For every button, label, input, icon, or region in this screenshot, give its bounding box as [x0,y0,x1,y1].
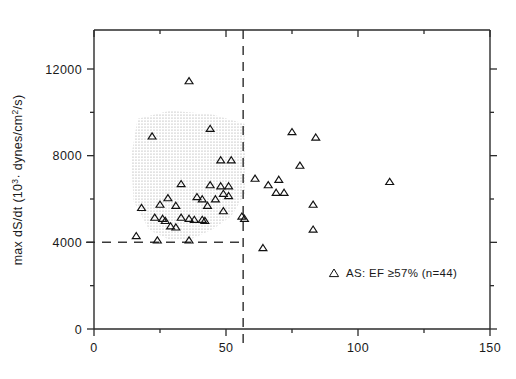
data-point-marker [259,244,267,250]
axis-tick-labels: 05010015004000800012000 [45,63,501,356]
legend: AS: EF ≥57% (n=44) [329,267,457,279]
plot-canvas: 05010015004000800012000 max dS/dt (103· … [0,0,516,379]
y-axis-title: max dS/dt (103· dynes/cm2/s) [10,95,25,266]
shaded-normal-range-region [131,111,246,241]
y-tick-label: 8000 [53,149,82,163]
scatter-plot-figure: 05010015004000800012000 max dS/dt (103· … [0,0,516,379]
x-tick-label: 150 [479,341,501,355]
data-point-marker [296,162,304,168]
data-point-marker [264,182,272,188]
svg-text:max dS/dt (103· dynes/cm2/s): max dS/dt (103· dynes/cm2/s) [10,95,25,266]
data-point-marker [309,201,317,207]
data-point-marker [280,189,288,195]
x-tick-label: 100 [347,341,369,355]
data-point-marker [185,78,193,84]
data-point-marker [288,129,296,135]
data-point-marker [312,134,320,140]
y-tick-label: 4000 [53,236,82,250]
data-point-marker [309,226,317,232]
x-tick-label: 50 [219,341,234,355]
y-tick-label: 0 [75,323,82,337]
data-point-marker [241,215,249,221]
data-point-marker [251,175,259,181]
legend-marker-triangle [329,269,338,277]
data-point-marker [275,176,283,182]
data-point-marker [386,178,394,184]
legend-label: AS: EF ≥57% (n=44) [346,267,457,279]
y-tick-label: 12000 [45,63,82,77]
data-point-marker [132,233,140,239]
data-point-marker [272,189,280,195]
x-tick-label: 0 [90,341,97,355]
